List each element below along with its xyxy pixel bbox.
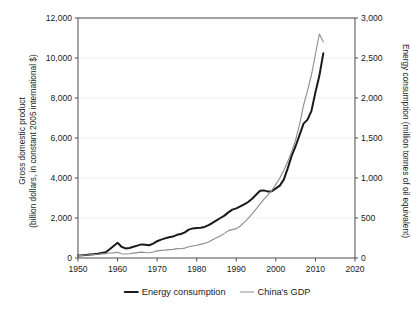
x-tick-label: 2000: [266, 264, 285, 274]
y-tick-label-right: 0: [361, 253, 366, 263]
y-tick-label-left: 2,000: [50, 213, 72, 223]
y-axis-right-title: Energy consumption (million tonnes of oi…: [401, 44, 411, 238]
y-tick-label-right: 1,500: [361, 133, 383, 143]
legend-label: Energy consumption: [142, 287, 226, 297]
y-tick-label-left: 10,000: [46, 53, 73, 63]
legend-label: China's GDP: [258, 287, 311, 297]
y-axis-left-title-line1: Gross domestic product: [17, 97, 27, 185]
y-tick-label-left: 4,000: [50, 173, 72, 183]
y-axis-left-title-line2: (billion dollars, in constant 2005 inter…: [28, 54, 38, 228]
y-tick-label-right: 2,500: [361, 53, 383, 63]
y-tick-label-left: 12,000: [46, 13, 73, 23]
y-tick-label-right: 500: [361, 213, 376, 223]
y-tick-label-right: 3,000: [361, 13, 383, 23]
chart-figure: 02,0004,0006,0008,00010,00012,000 05001,…: [0, 0, 411, 314]
x-tick-label: 1970: [148, 264, 167, 274]
x-tick-label: 1980: [187, 264, 206, 274]
y-tick-label-right: 2,000: [361, 93, 383, 103]
x-tick-label: 1950: [68, 264, 87, 274]
y-tick-label-left: 8,000: [50, 93, 72, 103]
x-tick-label: 2010: [306, 264, 325, 274]
line-chart: 02,0004,0006,0008,00010,00012,000 05001,…: [0, 0, 411, 314]
chart-legend: Energy consumptionChina's GDP: [125, 287, 311, 297]
x-tick-label: 1960: [108, 264, 127, 274]
y-tick-label-left: 6,000: [50, 133, 72, 143]
x-tick-label: 1990: [227, 264, 246, 274]
y-tick-label-left: 0: [67, 253, 72, 263]
x-tick-label: 2020: [345, 264, 364, 274]
y-tick-label-right: 1,000: [361, 173, 383, 183]
